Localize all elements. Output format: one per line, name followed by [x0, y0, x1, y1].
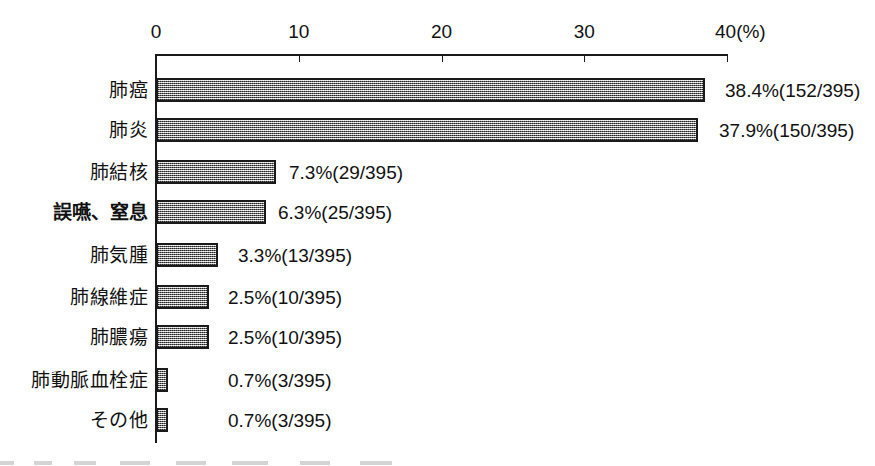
bar — [156, 325, 209, 349]
category-label: 肺線維症 — [70, 288, 148, 307]
x-axis-tick-label-0: 0 — [151, 22, 162, 41]
x-axis-tick-label-30: 30 — [574, 22, 595, 41]
bar — [156, 368, 168, 392]
bar-value-label: 37.9%(150/395) — [719, 121, 854, 140]
bar-value-label: 0.7%(3/395) — [228, 371, 332, 390]
bar — [156, 118, 698, 142]
bar — [156, 408, 168, 432]
x-axis-tick-0 — [156, 54, 157, 62]
bar — [156, 243, 218, 267]
page-bottom-artifact — [0, 461, 560, 465]
bar — [156, 200, 266, 224]
category-label: 肺気腫 — [90, 246, 149, 265]
x-axis-tick-label-10: 10 — [288, 22, 309, 41]
bar — [156, 160, 276, 184]
category-label: 誤嚥、窒息 — [53, 203, 148, 222]
category-label: その他 — [90, 411, 149, 430]
bar-value-label: 38.4%(152/395) — [725, 81, 860, 100]
x-axis-tick-label-40: 40(%) — [715, 22, 766, 41]
x-axis-tick-label-20: 20 — [431, 22, 452, 41]
category-label: 肺結核 — [90, 163, 149, 182]
bar-chart: 010203040(%) 肺癌38.4%(152/395)肺炎37.9%(150… — [0, 0, 875, 466]
x-axis-tick-20 — [442, 54, 443, 62]
bar-value-label: 0.7%(3/395) — [228, 411, 332, 430]
x-axis-tick-40 — [727, 54, 728, 62]
bar-value-label: 2.5%(10/395) — [228, 288, 342, 307]
bar — [156, 78, 705, 102]
category-label: 肺動脈血栓症 — [31, 371, 148, 390]
category-label: 肺膿瘍 — [90, 328, 149, 347]
bar-value-label: 2.5%(10/395) — [228, 328, 342, 347]
bar-value-label: 7.3%(29/395) — [289, 163, 403, 182]
x-axis-tick-10 — [299, 54, 300, 62]
category-label: 肺癌 — [109, 81, 148, 100]
x-axis-tick-30 — [584, 54, 585, 62]
x-axis-unit-label: (%) — [736, 21, 766, 42]
bar — [156, 285, 209, 309]
category-label: 肺炎 — [109, 121, 148, 140]
bar-value-label: 6.3%(25/395) — [278, 203, 392, 222]
bar-value-label: 3.3%(13/395) — [238, 246, 352, 265]
